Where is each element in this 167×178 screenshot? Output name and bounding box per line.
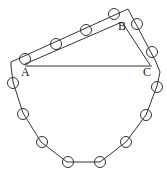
diagram-canvas — [0, 0, 167, 178]
label-b: B — [118, 20, 126, 32]
bead — [18, 109, 29, 120]
bead — [37, 137, 48, 148]
label-a: A — [21, 66, 30, 78]
bead — [51, 39, 62, 50]
side-ab — [25, 22, 122, 64]
beads — [8, 9, 163, 168]
bead — [147, 47, 158, 58]
bead — [132, 19, 143, 30]
chain-hanging — [11, 66, 160, 162]
label-c: C — [143, 66, 151, 78]
